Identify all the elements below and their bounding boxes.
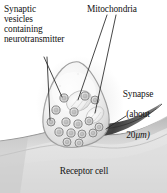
synaptic-vesicle — [74, 120, 82, 128]
label-synapse-measurement: 20μm) — [110, 130, 166, 140]
synaptic-vesicle — [85, 117, 93, 125]
synaptic-vesicle — [89, 129, 97, 137]
label-receptor-cell: Receptor cell — [30, 166, 138, 176]
label-synapse-unit: μm) — [135, 130, 149, 140]
synaptic-vesicle — [78, 130, 86, 138]
synaptic-vesicle — [62, 118, 70, 126]
label-synapse-line2: (about — [110, 109, 166, 119]
synaptic-vesicle — [95, 123, 103, 131]
synaptic-vesicle — [67, 129, 75, 137]
label-synapse-line1: Synapse — [110, 89, 166, 99]
label-synapse: Synapse (about 20μm) — [110, 79, 166, 150]
synaptic-vesicle — [47, 118, 55, 126]
synaptic-vesicle — [70, 108, 78, 116]
synaptic-vesicle — [55, 128, 63, 136]
synaptic-vesicle — [52, 106, 60, 114]
synapse-figure: Synaptic vesicles containing neurotransm… — [0, 0, 167, 193]
label-mitochondria: Mitochondria — [87, 4, 167, 14]
synaptic-vesicle — [75, 139, 83, 147]
synaptic-vesicle — [63, 138, 71, 146]
label-synaptic-vesicles: Synaptic vesicles containing neurotransm… — [4, 4, 96, 45]
synaptic-vesicle — [81, 92, 89, 100]
